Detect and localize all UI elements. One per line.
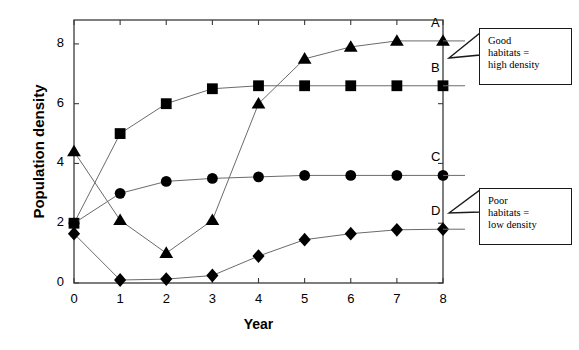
- data-point-D-5: [299, 233, 311, 247]
- callout-poor-line1: Poor: [488, 195, 565, 207]
- y-tick-label-2: 2: [34, 214, 64, 229]
- data-point-B-4: [253, 80, 264, 91]
- data-point-D-6: [345, 227, 357, 241]
- data-point-C-2: [161, 176, 172, 187]
- data-point-A-8: [436, 34, 450, 46]
- y-tick-label-6: 6: [34, 95, 64, 110]
- callout-good-line2: habitats =: [488, 47, 565, 59]
- series-B: [69, 80, 465, 228]
- callout-poor-habitats: Poor habitats = low density: [479, 188, 572, 245]
- callout-good-line1: Good: [488, 35, 565, 47]
- x-tick-label-5: 5: [293, 291, 317, 306]
- callout-poor-line3: low density: [488, 219, 565, 231]
- series-C: [69, 170, 465, 229]
- data-point-C-6: [345, 170, 356, 181]
- x-tick-label-1: 1: [108, 291, 132, 306]
- series-label-C: C: [431, 149, 440, 164]
- data-point-B-6: [345, 80, 356, 91]
- data-point-A-2: [159, 246, 173, 258]
- y-tick-label-8: 8: [34, 35, 64, 50]
- data-point-B-7: [391, 80, 402, 91]
- data-point-B-1: [115, 128, 126, 139]
- callout-poor-line2: habitats =: [488, 207, 565, 219]
- callout-good-line3: high density: [488, 59, 565, 71]
- x-tick-label-4: 4: [247, 291, 271, 306]
- y-tick-label-4: 4: [34, 154, 64, 169]
- series-D: [68, 222, 465, 287]
- data-point-C-1: [115, 188, 126, 199]
- data-point-A-3: [205, 213, 219, 225]
- population-density-chart: Population density Year 01234567802468AB…: [0, 0, 579, 350]
- data-point-D-3: [206, 269, 218, 283]
- data-point-B-2: [161, 98, 172, 109]
- x-tick-label-8: 8: [431, 291, 455, 306]
- x-tick-label-3: 3: [200, 291, 224, 306]
- x-tick-label-7: 7: [385, 291, 409, 306]
- series-label-A: A: [431, 15, 440, 30]
- data-point-D-7: [391, 223, 403, 237]
- y-tick-label-0: 0: [34, 274, 64, 289]
- series-label-B: B: [431, 60, 440, 75]
- data-point-A-7: [390, 34, 404, 46]
- data-point-A-1: [113, 213, 127, 225]
- x-tick-label-2: 2: [154, 291, 178, 306]
- series-label-D: D: [431, 203, 440, 218]
- data-point-C-4: [253, 172, 264, 183]
- data-point-C-5: [299, 170, 310, 181]
- data-point-C-3: [207, 173, 218, 184]
- plot-frame: [74, 20, 443, 283]
- data-point-C-7: [391, 170, 402, 181]
- data-point-D-4: [252, 249, 264, 263]
- data-point-A-0: [67, 145, 81, 157]
- series-line-A: [74, 41, 443, 253]
- callout-good-habitats: Good habitats = high density: [479, 28, 572, 85]
- data-point-D-2: [160, 272, 172, 286]
- series-line-C: [74, 175, 443, 223]
- data-point-B-5: [299, 80, 310, 91]
- x-tick-label-6: 6: [339, 291, 363, 306]
- x-axis-title: Year: [74, 316, 443, 332]
- data-point-B-3: [207, 83, 218, 94]
- series-A: [67, 34, 465, 258]
- x-tick-label-0: 0: [62, 291, 86, 306]
